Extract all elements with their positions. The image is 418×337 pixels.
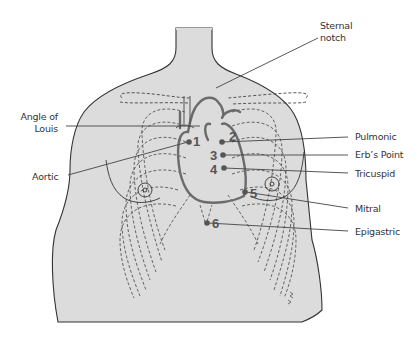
label-aortic: Aortic — [32, 171, 58, 183]
label-epigastric: Epigastric — [355, 226, 400, 238]
label-pulmonic: Pulmonic — [355, 131, 397, 143]
label-tricuspid: Tricuspid — [355, 168, 395, 180]
point-6-dot — [204, 220, 210, 226]
point-number-1: 1 — [193, 134, 200, 149]
label-mitral: Mitral — [355, 203, 381, 215]
point-5-dot — [242, 189, 248, 195]
point-3-dot — [220, 152, 226, 158]
point-number-4: 4 — [210, 162, 217, 177]
point-4-dot — [221, 165, 227, 171]
point-1-dot — [186, 139, 192, 145]
label-angle-of-louis: Angle of Louis — [20, 111, 58, 135]
label-sternal-notch: Sternal notch — [320, 20, 352, 44]
point-2-dot — [219, 139, 225, 145]
point-number-6: 6 — [212, 216, 219, 231]
point-number-5: 5 — [250, 186, 257, 201]
torso-outline — [52, 28, 322, 322]
label-erbs-point: Erb’s Point — [355, 149, 403, 161]
point-number-3: 3 — [210, 148, 217, 163]
point-number-2: 2 — [229, 129, 236, 144]
